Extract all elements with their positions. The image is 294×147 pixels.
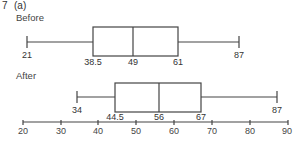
- boxplot-chart: [0, 0, 294, 147]
- x-tick-50: 50: [131, 126, 141, 136]
- before-max-label: 87: [234, 50, 244, 60]
- x-tick-40: 40: [93, 126, 103, 136]
- x-tick-20: 20: [18, 126, 28, 136]
- after-median-label: 56: [154, 112, 164, 122]
- x-tick-70: 70: [207, 126, 217, 136]
- after-q1-label: 44.5: [106, 112, 124, 122]
- x-tick-30: 30: [56, 126, 66, 136]
- after-q3-label: 67: [196, 112, 206, 122]
- x-tick-60: 60: [169, 126, 179, 136]
- before-boxplot: [27, 27, 239, 56]
- after-min-label: 34: [72, 105, 82, 115]
- after-boxplot: [77, 83, 277, 112]
- before-q3-label: 61: [173, 57, 183, 67]
- before-min-label: 21: [22, 50, 32, 60]
- after-max-label: 87: [272, 105, 282, 115]
- x-tick-90: 90: [282, 126, 292, 136]
- before-median-label: 49: [128, 57, 138, 67]
- x-tick-80: 80: [245, 126, 255, 136]
- before-q1-label: 38.5: [84, 57, 102, 67]
